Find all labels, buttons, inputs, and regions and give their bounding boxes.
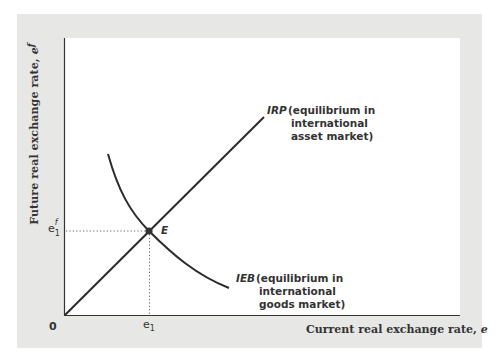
ieb-label: IEB (equilibrium in international goods … — [236, 272, 356, 312]
irp-desc-1: (equilibrium in — [288, 104, 375, 117]
y-axis-label: Future real exchange rate, ef — [25, 43, 42, 225]
x-tick-e1: e1 — [143, 318, 155, 333]
origin-label: 0 — [49, 320, 57, 333]
equilibrium-label: E — [161, 224, 168, 236]
ieb-desc-3: goods market) — [259, 298, 345, 311]
y-tick-e1f: ef1 — [48, 222, 61, 235]
ieb-desc-2: international — [259, 285, 336, 298]
irp-desc-3: asset market) — [291, 130, 373, 143]
ieb-curve — [108, 154, 229, 288]
irp-name: IRP — [267, 104, 287, 117]
ieb-name: IEB — [236, 272, 255, 285]
ieb-desc-1: (equilibrium in — [256, 272, 343, 285]
x-axis-label: Current real exchange rate, e — [306, 323, 488, 336]
irp-desc-2: international — [291, 117, 368, 130]
irp-line — [65, 117, 264, 315]
irp-label: IRP (equilibrium in international asset … — [267, 104, 387, 144]
equilibrium-point — [145, 227, 152, 234]
